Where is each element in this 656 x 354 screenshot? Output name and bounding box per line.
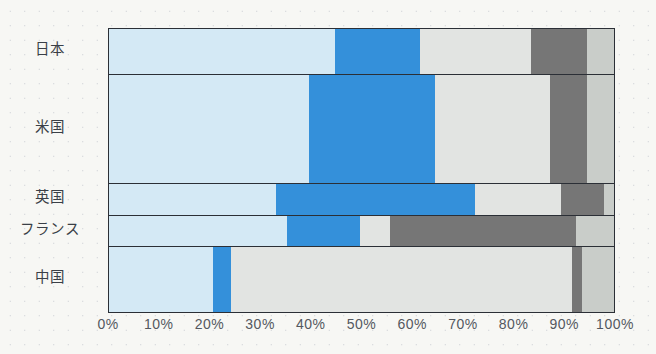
bar-segment-series2	[213, 247, 231, 312]
bar-row	[109, 29, 614, 75]
bar-segment-series3	[435, 75, 550, 183]
category-label-4: 中国	[0, 270, 100, 285]
bar-segment-series3	[420, 29, 531, 74]
bar-segment-series1	[109, 29, 335, 74]
x-tick-label-0: 0%	[97, 316, 118, 332]
bar-segment-series3	[360, 216, 390, 247]
bar-segment-series4	[572, 247, 582, 312]
category-label-0: 日本	[0, 42, 100, 57]
bar-row	[109, 75, 614, 184]
bar-segment-series3	[475, 184, 562, 215]
bar-segment-series2	[287, 216, 360, 247]
x-tick-label-30: 30%	[245, 316, 275, 332]
bar-segment-series4	[390, 216, 576, 247]
x-tick-label-10: 10%	[144, 316, 174, 332]
x-axis: 0%10%20%30%40%50%60%70%80%90%100%	[108, 316, 615, 342]
x-tick-label-90: 90%	[550, 316, 580, 332]
x-tick-label-60: 60%	[397, 316, 427, 332]
bar-segment-series5	[604, 184, 614, 215]
x-tick-label-40: 40%	[296, 316, 326, 332]
bar-segment-series4	[531, 29, 587, 74]
bar-segment-series1	[109, 247, 213, 312]
bar-segment-series5	[576, 216, 614, 247]
x-tick-label-80: 80%	[499, 316, 529, 332]
bar-segment-series2	[276, 184, 474, 215]
x-tick-label-100: 100%	[596, 316, 634, 332]
bar-segment-series2	[309, 75, 435, 183]
stacked-bar-chart: 日本米国英国フランス中国 0%10%20%30%40%50%60%70%80%9…	[0, 0, 656, 354]
category-label-2: 英国	[0, 190, 100, 205]
bar-segment-series4	[550, 75, 587, 183]
bar-segment-series1	[109, 216, 287, 247]
bar-segment-series5	[582, 247, 614, 312]
bar-row	[109, 184, 614, 216]
bar-segment-series1	[109, 184, 276, 215]
plot-area	[108, 28, 615, 313]
bar-row	[109, 247, 614, 312]
x-tick-label-50: 50%	[347, 316, 377, 332]
category-label-3: フランス	[0, 222, 100, 237]
category-axis-labels: 日本米国英国フランス中国	[0, 28, 100, 313]
bar-segment-series5	[587, 29, 614, 74]
bar-segment-series4	[561, 184, 604, 215]
bar-row	[109, 216, 614, 248]
bar-segment-series1	[109, 75, 309, 183]
bar-segment-series5	[587, 75, 614, 183]
bar-segment-series3	[231, 247, 572, 312]
x-tick-label-20: 20%	[195, 316, 225, 332]
bar-segment-series2	[335, 29, 420, 74]
category-label-1: 米国	[0, 120, 100, 135]
x-tick-label-70: 70%	[448, 316, 478, 332]
